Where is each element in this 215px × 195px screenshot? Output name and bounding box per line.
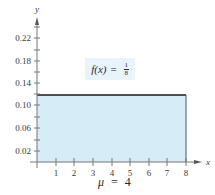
y-tick-label: 0.06 bbox=[15, 123, 31, 133]
x-axis-arrow-icon bbox=[194, 160, 202, 164]
y-tick-label: 0.02 bbox=[15, 146, 31, 156]
y-tick-label: 0.22 bbox=[15, 33, 31, 43]
shaded-area bbox=[37, 95, 186, 162]
x-tick-label: 6 bbox=[147, 168, 152, 178]
y-axis-arrow-icon bbox=[35, 17, 39, 25]
x-axis-label: x bbox=[205, 157, 210, 167]
mean-annotation: μ = 4 bbox=[98, 175, 131, 190]
y-tick-label: 0.10 bbox=[15, 100, 31, 110]
y-tick-label: 0.18 bbox=[15, 56, 31, 66]
x-tick-label: 3 bbox=[91, 168, 96, 178]
fraction: 1 8 bbox=[124, 62, 129, 77]
function-label: f(x) = 1 8 bbox=[85, 58, 135, 80]
y-axis-label: y bbox=[34, 4, 39, 14]
y-tick-label: 0.14 bbox=[15, 78, 31, 88]
x-tick-label: 2 bbox=[72, 168, 77, 178]
x-tick-label: 8 bbox=[184, 168, 189, 178]
uniform-distribution-chart: 0.02 0.06 0.10 0.14 0.18 0.22 1 2 3 4 5 … bbox=[0, 0, 215, 195]
x-tick-label: 7 bbox=[165, 168, 170, 178]
x-tick-label: 1 bbox=[54, 168, 59, 178]
